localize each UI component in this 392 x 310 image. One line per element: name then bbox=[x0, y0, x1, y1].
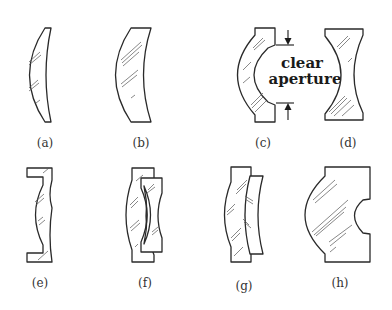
lens-a bbox=[29, 28, 51, 122]
panel-label-f: (f) bbox=[138, 276, 152, 290]
arrow-up-icon bbox=[285, 103, 292, 120]
lens-b bbox=[116, 28, 152, 122]
panel-label-h: (h) bbox=[331, 276, 348, 290]
arrow-down-icon bbox=[285, 30, 292, 45]
panel-label-b: (b) bbox=[132, 136, 149, 150]
lens-e bbox=[27, 168, 52, 262]
panel-label-e: (e) bbox=[32, 276, 48, 290]
lens-f bbox=[126, 168, 162, 262]
panel-label-g: (g) bbox=[235, 279, 252, 293]
clear-aperture-label-line2: aperture bbox=[269, 70, 342, 88]
panel-label-c: (c) bbox=[255, 136, 271, 150]
lens-h bbox=[305, 167, 370, 262]
lens-diagram: (a) (b) bbox=[0, 0, 392, 310]
panel-label-a: (a) bbox=[37, 136, 54, 150]
lens-g bbox=[225, 167, 264, 262]
panel-label-d: (d) bbox=[339, 136, 356, 150]
